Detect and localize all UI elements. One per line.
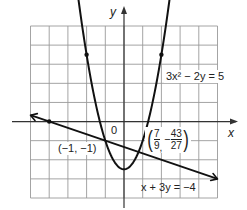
fraction-x: 79	[154, 128, 160, 151]
y-numerator: 43	[171, 128, 182, 140]
parabola-point	[159, 52, 163, 56]
x-denominator: 9	[154, 140, 160, 151]
intersection-label-2: (79,−4327)	[145, 127, 191, 153]
comma: ,	[160, 142, 163, 153]
open-paren: (	[147, 127, 153, 151]
parabola-point	[84, 52, 88, 56]
line-point	[47, 119, 51, 123]
origin-label: 0	[111, 125, 117, 136]
y-axis-arrow-icon	[121, 6, 127, 14]
axes	[12, 6, 238, 208]
x-axis-arrow-icon	[230, 119, 238, 125]
x-numerator: 7	[154, 128, 160, 140]
line-equation-label: x + 3y = −4	[141, 182, 196, 193]
y-denominator: 27	[171, 140, 182, 151]
fraction-y: 4327	[171, 128, 182, 151]
intersection-label-1: (−1, −1)	[57, 142, 98, 155]
x-axis-label: x	[228, 127, 234, 139]
parabola-equation-label: 3x² − 2y = 5	[164, 70, 226, 83]
close-paren: )	[183, 127, 189, 151]
graph-canvas	[0, 0, 247, 210]
y-axis-label: y	[110, 6, 116, 18]
